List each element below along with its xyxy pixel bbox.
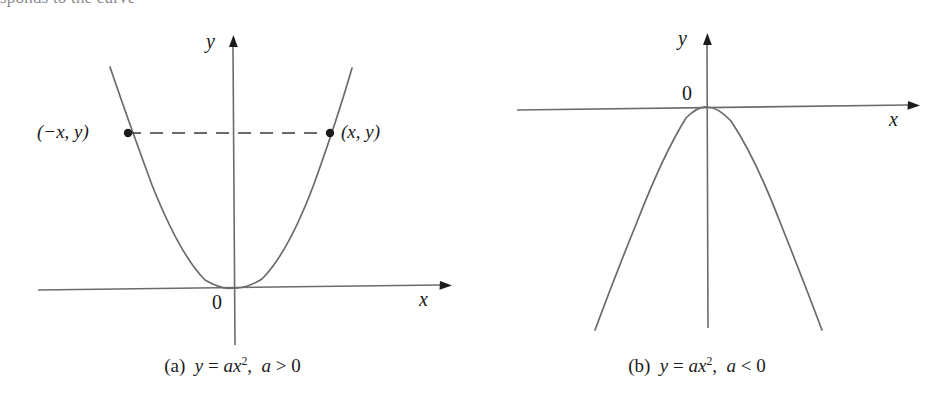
- caption-b-equals: =: [673, 355, 684, 376]
- point-marker-right: [326, 129, 334, 137]
- figure-panel-a: y x 0 (−x, y) (x, y) (a) y = ax2, a > 0: [0, 0, 465, 397]
- caption-b-value: 0: [756, 355, 766, 376]
- caption-a-equals: =: [208, 355, 219, 376]
- y-axis-line: [233, 46, 235, 345]
- caption-b-parameter: a: [727, 355, 737, 376]
- y-axis-arrowhead: [703, 33, 712, 45]
- y-axis-arrowhead: [229, 35, 238, 47]
- point-label-right: (x, y): [341, 121, 380, 143]
- caption-b-index: (b): [628, 355, 650, 376]
- caption-a-value: 0: [291, 355, 301, 376]
- parabola-curve: [110, 67, 352, 288]
- y-axis-line: [707, 44, 708, 328]
- x-axis-arrowhead: [908, 101, 921, 110]
- figure-panel-b: y x 0 (b) y = ax2, a < 0: [465, 0, 929, 397]
- y-axis-label: y: [678, 27, 687, 50]
- x-axis-label: x: [889, 108, 898, 131]
- y-axis-label: y: [206, 30, 215, 53]
- origin-label: 0: [212, 291, 222, 314]
- parabola-upward-diagram: [0, 0, 465, 397]
- figure-page: sponds to the curve y x 0 (−x, y) (x, y)…: [0, 0, 929, 397]
- point-marker-left: [124, 129, 132, 137]
- caption-b-relation: <: [741, 355, 752, 376]
- caption-b-coefficient: ax: [689, 355, 707, 376]
- origin-label: 0: [682, 82, 692, 105]
- caption-a-lhs: y: [195, 355, 203, 376]
- caption-a-coefficient: ax: [223, 355, 241, 376]
- parabola-downward-diagram: [465, 0, 929, 397]
- point-label-left: (−x, y): [37, 121, 89, 143]
- caption-b: (b) y = ax2, a < 0: [465, 355, 929, 377]
- x-axis-label: x: [419, 288, 428, 311]
- caption-a-parameter: a: [262, 355, 272, 376]
- caption-a-index: (a): [164, 355, 185, 376]
- caption-a: (a) y = ax2, a > 0: [0, 355, 465, 377]
- x-axis-arrowhead: [440, 281, 453, 290]
- caption-a-relation: >: [276, 355, 287, 376]
